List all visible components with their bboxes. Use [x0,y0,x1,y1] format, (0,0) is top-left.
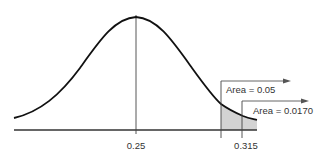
alpha-area-label: Area = 0.05 [226,84,275,95]
alpha-arrow-head-icon [283,79,291,84]
sample-tick-label: 0.315 [234,140,258,151]
normal-distribution-chart: Area = 0.05 Area = 0.0170 0.25 0.315 [0,0,318,163]
mean-tick-label: 0.25 [127,140,146,151]
p-value-arrow-head-icon [301,99,309,104]
p-value-area-label: Area = 0.0170 [253,105,313,116]
